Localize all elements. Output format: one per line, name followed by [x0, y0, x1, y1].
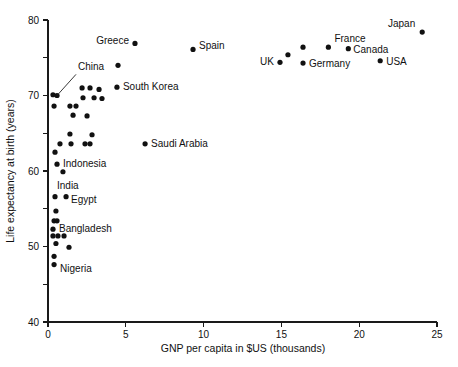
data-point — [132, 41, 137, 46]
scatter-plot: 40506070800510152025 JapanGreeceSpainFra… — [0, 0, 458, 367]
x-tick-label: 25 — [431, 329, 443, 340]
data-point — [50, 92, 55, 97]
data-point — [57, 141, 62, 146]
data-point — [346, 46, 351, 51]
data-point — [70, 113, 75, 118]
axis-lines — [48, 20, 437, 322]
y-tick-label: 40 — [28, 317, 40, 328]
data-point — [52, 150, 57, 155]
data-point — [50, 233, 55, 238]
data-point — [300, 45, 305, 50]
x-tick-label: 0 — [45, 329, 51, 340]
data-point — [68, 141, 73, 146]
point-label: Bangladesh — [59, 223, 112, 234]
data-point — [53, 208, 58, 213]
data-point — [96, 87, 101, 92]
x-tick-label: 15 — [276, 329, 288, 340]
point-label: Nigeria — [60, 263, 92, 274]
data-point — [50, 227, 55, 232]
data-point — [66, 245, 71, 250]
data-point — [99, 96, 104, 101]
chart-container: 40506070800510152025 JapanGreeceSpainFra… — [0, 0, 458, 367]
x-axis-title: GNP per capita in $US (thousands) — [161, 342, 325, 354]
data-point — [115, 63, 120, 68]
data-point — [300, 60, 305, 65]
point-label: Germany — [309, 58, 350, 69]
data-point — [87, 85, 92, 90]
point-label: Japan — [388, 18, 415, 29]
data-point — [79, 85, 84, 90]
y-tick-label: 60 — [28, 166, 40, 177]
data-point — [190, 47, 195, 52]
point-label: USA — [386, 56, 407, 67]
point-label: India — [57, 180, 79, 191]
axes — [48, 20, 437, 322]
y-tick-label: 70 — [28, 90, 40, 101]
data-point — [63, 194, 68, 199]
data-point — [67, 131, 72, 136]
point-label: Saudi Arabia — [151, 138, 208, 149]
leader-line — [57, 74, 76, 95]
point-label: France — [334, 33, 366, 44]
x-tick-label: 5 — [123, 329, 129, 340]
data-point — [51, 262, 56, 267]
point-label: UK — [260, 56, 274, 67]
data-point — [52, 194, 57, 199]
data-point — [84, 113, 89, 118]
data-point — [54, 162, 59, 167]
data-point — [285, 52, 290, 57]
data-point — [142, 141, 147, 146]
data-point — [67, 103, 72, 108]
point-label: Greece — [96, 35, 129, 46]
data-point — [51, 254, 56, 259]
data-point — [87, 141, 92, 146]
data-point — [114, 85, 119, 90]
data-point — [73, 103, 78, 108]
data-point — [91, 95, 96, 100]
point-label: China — [78, 61, 105, 72]
data-point — [89, 132, 94, 137]
point-label: Spain — [199, 40, 225, 51]
point-label: Indonesia — [63, 158, 107, 169]
data-point — [378, 58, 383, 63]
point-label: South Korea — [123, 81, 179, 92]
point-label: Egypt — [71, 194, 97, 205]
point-labels: JapanGreeceSpainFranceCanadaUKGermanyUSA… — [57, 18, 415, 274]
point-label: Canada — [353, 44, 388, 55]
data-point — [80, 95, 85, 100]
x-tick-label: 20 — [354, 329, 366, 340]
data-point — [277, 60, 282, 65]
y-tick-label: 50 — [28, 241, 40, 252]
data-point — [60, 169, 65, 174]
data-point — [326, 45, 331, 50]
data-point — [82, 141, 87, 146]
x-tick-label: 10 — [198, 329, 210, 340]
data-point — [51, 103, 56, 108]
y-axis-title: Life expectancy at birth (years) — [4, 99, 16, 243]
data-point — [53, 241, 58, 246]
data-point — [420, 29, 425, 34]
y-tick-label: 80 — [28, 15, 40, 26]
